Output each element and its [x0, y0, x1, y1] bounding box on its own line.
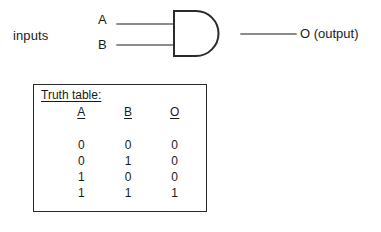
truth-table-header-b: B [105, 103, 152, 121]
cell-o: 0 [151, 153, 198, 169]
truth-table-header-a: A [58, 103, 105, 121]
truth-table-header-o: O [151, 103, 198, 121]
table-row: 1 0 0 [58, 169, 198, 185]
header-label-a: A [77, 105, 85, 120]
truth-table-header-row: A B O [58, 103, 198, 121]
input-wires [117, 24, 174, 45]
cell-b: 1 [105, 185, 152, 201]
logic-gate-diagram: inputs A B O (output) Truth table: A B O [0, 0, 381, 232]
table-row: 1 1 1 [58, 185, 198, 201]
cell-b: 0 [105, 169, 152, 185]
cell-a: 1 [58, 185, 105, 201]
cell-a: 1 [58, 169, 105, 185]
cell-o: 0 [151, 169, 198, 185]
table-row: 0 1 0 [58, 153, 198, 169]
cell-b: 0 [105, 121, 152, 153]
truth-table-box: Truth table: A B O 0 0 0 0 1 0 [33, 84, 207, 212]
cell-o: 0 [151, 121, 198, 153]
and-gate-body [174, 11, 219, 56]
header-label-o: O [170, 105, 179, 120]
cell-a: 0 [58, 153, 105, 169]
cell-o: 1 [151, 185, 198, 201]
header-label-b: B [124, 105, 132, 120]
and-gate-graphic [0, 0, 381, 80]
truth-table: A B O 0 0 0 0 1 0 1 0 [58, 103, 198, 201]
cell-a: 0 [58, 121, 105, 153]
truth-table-title: Truth table: [41, 88, 101, 103]
table-row: 0 0 0 [58, 121, 198, 153]
cell-b: 1 [105, 153, 152, 169]
truth-table-head: A B O [58, 103, 198, 121]
truth-table-body: 0 0 0 0 1 0 1 0 0 1 1 1 [58, 121, 198, 201]
